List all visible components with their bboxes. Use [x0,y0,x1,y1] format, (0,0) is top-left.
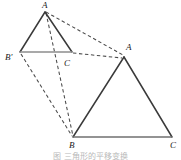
figure-caption: 图 三角形的平移变换 [0,152,181,160]
vertex-label-large-c: C [170,141,176,150]
vertex-label-large-b: B [69,141,75,150]
figure-canvas [0,0,181,160]
small-triangle-side-a-bprime [20,12,45,52]
large-triangle-side-a-c [124,57,172,137]
connector-smallA-to-largeB [46,13,73,136]
small-triangle-side-a-c [45,12,72,52]
geometry-figure: A B' C A B C 图 三角形的平移变换 [0,0,181,160]
vertex-label-large-a: A [126,43,132,52]
small-triangle-group [20,12,72,52]
vertex-label-small-c: C [64,59,70,68]
vertex-label-small-bprime: B' [5,53,12,62]
large-triangle-group [73,57,172,137]
connector-smallC-to-largeA [73,53,122,58]
connector-smallA-to-largeA [46,12,123,55]
dashed-connectors-group [21,12,123,136]
vertex-label-small-a: A [42,1,48,10]
large-triangle-side-a-b [73,57,124,137]
